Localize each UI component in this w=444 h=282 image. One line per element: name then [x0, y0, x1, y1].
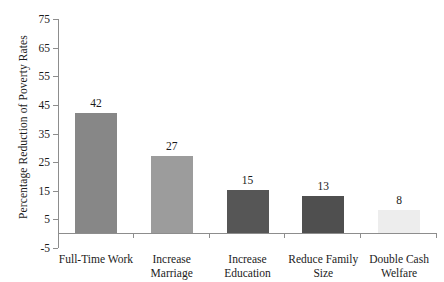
bar-value-label: 42: [90, 97, 102, 109]
x-axis-category-label: Full-Time Work: [58, 252, 134, 266]
y-tick-label: 65: [39, 42, 51, 54]
plot-area: 756555453525155-5 422715138: [58, 19, 437, 248]
x-tick-mark: [360, 233, 361, 238]
y-axis-line: [58, 19, 59, 248]
y-tick-label: 45: [39, 99, 51, 111]
y-tick-label: 25: [39, 156, 51, 168]
x-axis-category-line: Double Cash: [361, 252, 437, 266]
y-tick-mark: [53, 105, 58, 106]
x-axis-category-label: IncreaseEducation: [210, 252, 286, 280]
x-axis-baseline: [58, 233, 437, 234]
x-axis-category-line: Marriage: [134, 266, 210, 280]
x-tick-mark: [133, 233, 134, 238]
bar-value-label: 8: [396, 194, 402, 206]
y-tick-label: 75: [39, 13, 51, 25]
y-tick-mark: [53, 134, 58, 135]
x-axis-category-line: Welfare: [361, 266, 437, 280]
bar-value-label: 13: [318, 180, 330, 192]
y-tick-label: -5: [40, 242, 50, 254]
bar: 27: [151, 156, 193, 233]
bar: 13: [302, 196, 344, 233]
x-tick-mark: [436, 233, 437, 238]
bar: 42: [75, 113, 117, 233]
y-tick-mark: [53, 19, 58, 20]
y-tick-mark: [53, 162, 58, 163]
bar: 8: [378, 210, 420, 233]
x-axis-category-line: Full-Time Work: [58, 252, 134, 266]
y-tick-label: 35: [39, 128, 51, 140]
x-axis-category-line: Increase: [134, 252, 210, 266]
x-axis-labels: Full-Time WorkIncreaseMarriageIncreaseEd…: [58, 252, 437, 282]
x-tick-mark: [284, 233, 285, 238]
bar: 15: [227, 190, 269, 233]
y-tick-mark: [53, 248, 58, 249]
x-axis-category-line: Reduce Family: [285, 252, 361, 266]
y-tick-label: 5: [44, 213, 50, 225]
y-tick-label: 15: [39, 185, 51, 197]
x-axis-category-label: Reduce FamilySize: [285, 252, 361, 280]
x-axis-category-line: Increase: [210, 252, 286, 266]
bar-value-label: 15: [242, 174, 254, 186]
y-tick-mark: [53, 76, 58, 77]
y-tick-mark: [53, 219, 58, 220]
x-axis-category-label: IncreaseMarriage: [134, 252, 210, 280]
bar-value-label: 27: [166, 140, 178, 152]
x-axis-category-line: Size: [285, 266, 361, 280]
y-tick-label: 55: [39, 70, 51, 82]
y-tick-mark: [53, 48, 58, 49]
x-axis-category-line: Education: [210, 266, 286, 280]
x-axis-category-label: Double CashWelfare: [361, 252, 437, 280]
bar-chart: Percentage Reduction of Poverty Rates 75…: [0, 0, 444, 282]
y-tick-mark: [53, 191, 58, 192]
x-tick-mark: [209, 233, 210, 238]
y-axis-title: Percentage Reduction of Poverty Rates: [14, 7, 32, 247]
